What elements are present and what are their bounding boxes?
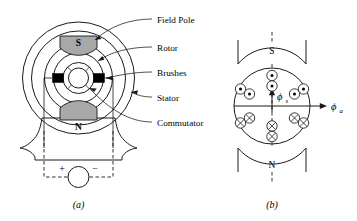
conductor-group-lower-left (235, 113, 254, 128)
callout-brushes: Brushes (157, 68, 187, 78)
panel-b-pole-top-label: S (269, 46, 274, 56)
conductor-group-upper-left (235, 84, 254, 99)
flux-armature-subscript: a (340, 107, 344, 114)
conductor-cross (298, 118, 308, 128)
caption-panel-b: (b) (266, 199, 278, 211)
figure-container: S N + − (0, 0, 357, 221)
callout-labels: Field Pole Rotor Brushes Stator Commutat… (157, 15, 203, 128)
conductor-group-top-center (267, 70, 277, 91)
conductor-cross (267, 131, 277, 141)
conductor-cross (244, 113, 254, 123)
callout-stator: Stator (157, 93, 179, 103)
terminal-plus-label: + (59, 163, 65, 174)
callout-commutator: Commutator (157, 118, 203, 128)
callout-field-pole: Field Pole (157, 15, 195, 25)
flux-armature-label: ϕ a (331, 101, 344, 114)
conductor-group-lower-right (289, 113, 308, 128)
flux-armature-arrow (234, 103, 327, 109)
caption-panel-a: (a) (73, 199, 85, 211)
panel-a: S N + − (20, 15, 203, 212)
supply-circuit: + − (44, 131, 113, 188)
flux-stator-symbol: ϕ (277, 91, 283, 102)
callout-rotor: Rotor (157, 43, 178, 53)
callout-leaders (89, 19, 152, 122)
dc-machine-figure: S N + − (0, 0, 357, 221)
voltage-source (68, 167, 89, 188)
panel-b: S N ϕ s ϕ a (234, 32, 344, 211)
flux-stator-subscript: s (286, 97, 289, 104)
conductor-dot (267, 81, 277, 91)
flux-armature-symbol: ϕ (331, 101, 337, 112)
brush-right (94, 74, 105, 83)
terminal-minus-label: − (92, 163, 98, 174)
conductor-group-bottom-center (267, 121, 277, 142)
pole-top-label: S (76, 38, 81, 48)
conductor-dot (267, 70, 277, 80)
conductor-group-upper-right (289, 84, 308, 99)
panel-b-pole-bottom-label: N (269, 160, 276, 170)
field-pole-top: S (60, 36, 97, 55)
brush-left (53, 74, 64, 83)
conductor-dot (298, 84, 308, 94)
conductor-dot (244, 89, 254, 99)
field-pole-bottom: N (60, 101, 97, 132)
pole-bottom-label: N (75, 122, 82, 132)
conductor-cross (267, 121, 277, 131)
flux-stator-label: ϕ s (277, 91, 289, 104)
